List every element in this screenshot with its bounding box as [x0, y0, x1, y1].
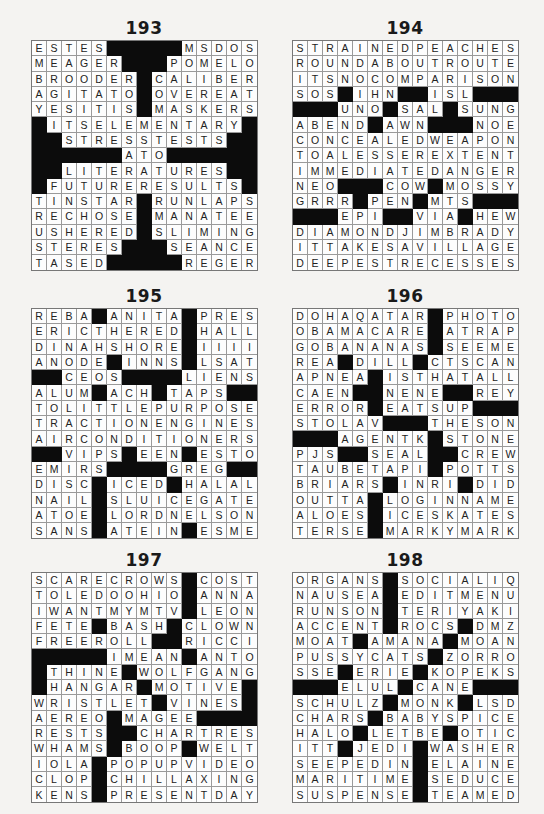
letter-cell: A [293, 508, 308, 523]
letter-cell: C [212, 634, 227, 649]
letter-cell: E [353, 787, 368, 802]
black-square [137, 87, 152, 102]
letter-cell: Y [503, 225, 518, 240]
letter-cell: D [212, 787, 227, 802]
letter-cell: E [353, 148, 368, 163]
letter-cell: P [293, 649, 308, 664]
letter-cell: E [167, 787, 182, 802]
letter-cell: I [197, 757, 212, 772]
letter-cell: O [212, 619, 227, 634]
letter-cell: G [413, 493, 428, 508]
letter-cell: R [47, 416, 62, 431]
letter-cell: O [107, 588, 122, 603]
letter-cell: E [323, 385, 338, 400]
letter-cell: A [293, 619, 308, 634]
letter-cell: J [398, 225, 413, 240]
letter-cell: E [413, 508, 428, 523]
letter-cell: A [32, 711, 47, 726]
letter-cell: T [92, 102, 107, 117]
letter-cell: T [227, 447, 242, 462]
letter-cell: A [398, 340, 413, 355]
letter-cell: U [92, 179, 107, 194]
letter-cell: P [137, 757, 152, 772]
letter-cell: D [293, 309, 308, 324]
letter-cell: I [137, 431, 152, 446]
letter-cell: S [242, 370, 257, 385]
letter-cell: E [503, 56, 518, 71]
letter-cell: R [182, 634, 197, 649]
letter-cell: O [323, 416, 338, 431]
letter-cell: O [137, 573, 152, 588]
letter-cell: S [443, 340, 458, 355]
letter-cell: I [47, 117, 62, 132]
letter-cell: O [62, 772, 77, 787]
letter-cell: P [353, 209, 368, 224]
letter-cell: H [62, 665, 77, 680]
letter-cell: B [443, 225, 458, 240]
letter-cell: C [368, 72, 383, 87]
black-square [308, 209, 323, 224]
letter-cell: E [107, 133, 122, 148]
letter-cell: R [47, 634, 62, 649]
letter-cell: D [503, 787, 518, 802]
letter-cell: T [32, 255, 47, 270]
letter-cell: R [182, 255, 197, 270]
letter-cell: S [242, 194, 257, 209]
letter-cell: E [197, 163, 212, 178]
black-square [293, 680, 308, 695]
letter-cell: E [293, 401, 308, 416]
letter-cell: H [47, 680, 62, 695]
letter-cell: E [47, 711, 62, 726]
letter-cell: N [137, 416, 152, 431]
letter-cell: R [503, 163, 518, 178]
letter-cell: A [152, 649, 167, 664]
letter-cell: S [212, 523, 227, 538]
letter-cell: Z [443, 649, 458, 664]
letter-cell: L [368, 726, 383, 741]
black-square [413, 772, 428, 787]
letter-cell: Y [122, 604, 137, 619]
letter-cell: Y [353, 649, 368, 664]
letter-cell: A [122, 619, 137, 634]
letter-cell: I [338, 772, 353, 787]
letter-cell: M [398, 72, 413, 87]
letter-cell: N [488, 588, 503, 603]
letter-cell: T [32, 416, 47, 431]
black-square [152, 41, 167, 56]
black-square [383, 588, 398, 603]
letter-cell: E [212, 741, 227, 756]
letter-cell: N [428, 695, 443, 710]
letter-cell: N [368, 225, 383, 240]
letter-cell: A [77, 309, 92, 324]
letter-cell: N [353, 102, 368, 117]
letter-cell: N [62, 787, 77, 802]
letter-cell: A [383, 324, 398, 339]
letter-cell: E [122, 695, 137, 710]
letter-cell: E [32, 462, 47, 477]
letter-cell: N [137, 355, 152, 370]
letter-cell: A [167, 72, 182, 87]
letter-cell: N [227, 225, 242, 240]
letter-cell: R [428, 604, 443, 619]
letter-cell: R [122, 163, 137, 178]
black-square [428, 649, 443, 664]
letter-cell: L [152, 772, 167, 787]
letter-cell: S [443, 431, 458, 446]
letter-cell: L [182, 370, 197, 385]
black-square [77, 649, 92, 664]
letter-cell: E [398, 133, 413, 148]
black-square [413, 787, 428, 802]
letter-cell: E [167, 340, 182, 355]
black-square [92, 493, 107, 508]
letter-cell: W [197, 741, 212, 756]
letter-cell: R [77, 240, 92, 255]
letter-cell: E [212, 431, 227, 446]
letter-cell: N [338, 72, 353, 87]
letter-cell: T [398, 649, 413, 664]
letter-cell: N [77, 680, 92, 695]
letter-cell: S [293, 757, 308, 772]
letter-cell: M [383, 634, 398, 649]
letter-cell: A [458, 508, 473, 523]
letter-cell: R [212, 726, 227, 741]
black-square [428, 462, 443, 477]
